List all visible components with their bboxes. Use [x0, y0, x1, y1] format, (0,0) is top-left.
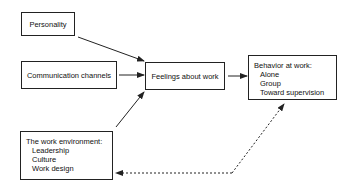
environment-item-leadership: Leadership [26, 146, 107, 155]
environment-item-culture: Culture [26, 155, 107, 164]
node-personality-label: Personality [29, 20, 66, 29]
node-feelings-about-work: Feelings about work [145, 62, 225, 90]
behavior-item-toward-supervision: Toward supervision [254, 88, 331, 97]
node-feelings-label: Feelings about work [151, 72, 218, 81]
behavior-item-alone: Alone [254, 70, 331, 79]
node-communication-label: Communication channels [27, 71, 111, 80]
node-behavior-label: Behavior at work: [254, 61, 331, 70]
arrow-personality-to-feelings [78, 37, 144, 61]
node-personality: Personality [21, 12, 75, 36]
environment-item-work-design: Work design [26, 164, 107, 173]
node-communication-channels: Communication channels [21, 61, 117, 89]
dashed-feedback-line [232, 104, 284, 173]
behavior-item-group: Group [254, 79, 331, 88]
node-environment-label: The work environment: [26, 137, 107, 146]
node-work-environment: The work environment: Leadership Culture… [20, 131, 113, 180]
arrow-environment-to-feelings [116, 92, 144, 127]
node-behavior-at-work: Behavior at work: Alone Group Toward sup… [248, 55, 337, 100]
